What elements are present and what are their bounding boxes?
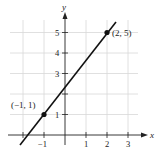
point-2-5 [104,30,109,35]
x-tick-labels: −1 1 2 3 [38,139,130,149]
y-tick-1: 1 [55,110,59,120]
y-axis-label: y [61,2,66,12]
y-tick-5: 5 [55,28,59,38]
point-neg1-1-label: (−1, 1) [11,100,36,110]
x-tick-3: 3 [126,139,130,149]
x-tick-1: 1 [84,139,88,149]
x-tick-neg1: −1 [38,139,47,149]
x-axis-arrow-icon [141,133,148,138]
point-2-5-label: (2, 5) [112,28,132,38]
x-tick-2: 2 [105,139,109,149]
coordinate-plane: x y −1 1 2 3 1 3 [0,0,156,153]
plotted-line [20,22,116,145]
y-tick-3: 3 [55,69,59,79]
graph-svg: x y −1 1 2 3 1 3 [0,0,156,153]
x-axis-label: x [149,130,154,140]
y-axis-arrow-icon [63,12,68,19]
point-neg1-1 [41,112,46,117]
